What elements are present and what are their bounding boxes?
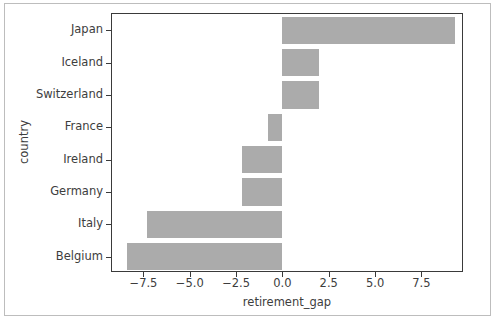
y-tick-mark — [106, 63, 112, 64]
y-tick-mark — [106, 127, 112, 128]
y-tick-mark — [106, 160, 112, 161]
bar — [268, 114, 283, 141]
x-axis-title: retirement_gap — [111, 295, 463, 309]
y-tick-label: France — [65, 122, 103, 134]
bar — [242, 146, 283, 173]
y-tick-label: Japan — [71, 24, 103, 36]
y-tick-mark — [106, 257, 112, 258]
bar — [242, 178, 283, 205]
y-tick-label: Italy — [78, 219, 103, 231]
y-tick-mark — [106, 95, 112, 96]
bar — [147, 211, 282, 238]
bar — [282, 49, 319, 76]
bar — [282, 81, 319, 108]
y-tick-label: Iceland — [61, 57, 103, 69]
y-tick-mark — [106, 30, 112, 31]
x-tick-label: −5.0 — [176, 278, 204, 290]
y-tick-label: Belgium — [56, 251, 103, 263]
y-tick-mark — [106, 192, 112, 193]
x-tick-label: 2.5 — [320, 278, 338, 290]
x-tick-label: 5.0 — [366, 278, 384, 290]
y-tick-mark — [106, 224, 112, 225]
plot-area: JapanIcelandSwitzerlandFranceIrelandGerm… — [111, 13, 463, 272]
chart-figure: country JapanIcelandSwitzerlandFranceIre… — [0, 0, 495, 322]
y-tick-label: Germany — [50, 186, 103, 198]
x-tick-label: 7.5 — [412, 278, 430, 290]
y-axis-title: country — [17, 120, 31, 164]
y-tick-label: Ireland — [63, 154, 103, 166]
x-tick-label: −7.5 — [130, 278, 158, 290]
x-tick-label: −2.5 — [222, 278, 250, 290]
bar — [127, 243, 283, 270]
y-tick-label: Switzerland — [36, 89, 103, 101]
x-tick-label: 0.0 — [273, 278, 291, 290]
bar — [282, 17, 454, 44]
